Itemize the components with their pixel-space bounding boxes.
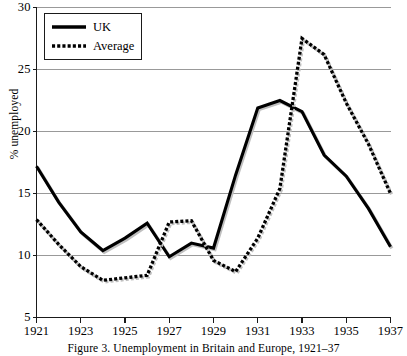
x-tick-label: 1935 (324, 324, 368, 339)
x-tick-label: 1927 (147, 324, 191, 339)
y-tick-label: 20 (5, 124, 31, 139)
x-tick-label: 1937 (369, 324, 407, 339)
x-tick-label: 1929 (192, 324, 236, 339)
legend-dotted-line-icon (52, 42, 86, 50)
legend-solid-line-icon (52, 23, 86, 31)
y-tick-label: 5 (5, 310, 31, 325)
data-series (37, 39, 392, 282)
legend-label-average: Average (93, 40, 134, 53)
x-tick-label: 1925 (103, 324, 147, 339)
series-line-uk (37, 101, 391, 257)
y-tick-label: 25 (5, 62, 31, 77)
x-tick-label: 1933 (280, 324, 324, 339)
legend-label-uk: UK (93, 21, 111, 34)
y-tick-label: 30 (5, 0, 31, 15)
x-tick-label: 1921 (15, 324, 59, 339)
y-tick-label: 15 (5, 186, 31, 201)
x-tick-label: 1931 (236, 324, 280, 339)
y-tick-label: 10 (5, 248, 31, 263)
legend-entry-average: Average (52, 38, 134, 54)
figure-container: % unemployed 51015202530 192119231925192… (0, 0, 407, 356)
figure-caption: Figure 3. Unemployment in Britain and Eu… (0, 342, 407, 354)
x-tick-label: 1923 (59, 324, 103, 339)
legend-entry-uk: UK (52, 19, 111, 35)
chart-legend: UK Average (44, 13, 142, 60)
